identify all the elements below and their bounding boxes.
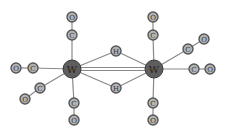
atom-c-c2: C xyxy=(28,63,38,73)
atom-o-o5: O xyxy=(148,12,158,22)
atom-o-o1: O xyxy=(67,12,77,22)
atom-label: O xyxy=(150,14,156,22)
atom-h-h1: H xyxy=(111,46,121,56)
atom-label: O xyxy=(13,65,19,73)
atom-label: H xyxy=(113,48,119,56)
atom-o-o8: O xyxy=(148,115,158,125)
atom-o-o3: O xyxy=(20,94,30,104)
atom-c-c5: C xyxy=(148,30,158,40)
atom-c-c7: C xyxy=(189,64,199,74)
atom-o-o7: O xyxy=(205,64,215,74)
atom-c-c1: C xyxy=(67,30,77,40)
atom-label: C xyxy=(185,46,190,54)
molecule-svg: WWHHCOCOCOCOCOCOCOCO xyxy=(0,0,225,136)
atom-c-c6: C xyxy=(183,44,193,54)
bonds-layer xyxy=(16,17,210,120)
molecule-diagram: WWHHCOCOCOCOCOCOCOCO xyxy=(0,0,225,136)
atom-c-c4: C xyxy=(69,98,79,108)
atom-label: C xyxy=(30,65,35,73)
atom-label: C xyxy=(191,66,196,74)
atom-w-w2: W xyxy=(145,60,163,78)
atom-label: O xyxy=(22,96,28,104)
atom-o-o6: O xyxy=(199,34,209,44)
atom-c-c3: C xyxy=(35,83,45,93)
atom-w-w1: W xyxy=(63,60,81,78)
atom-label: O xyxy=(71,117,77,125)
atom-label: O xyxy=(207,66,213,74)
atom-label: O xyxy=(69,14,75,22)
atom-label: W xyxy=(149,64,160,75)
atom-c-c8: C xyxy=(148,98,158,108)
atom-label: C xyxy=(150,100,155,108)
atom-label: C xyxy=(150,32,155,40)
atom-label: O xyxy=(201,36,207,44)
atom-label: C xyxy=(71,100,76,108)
atom-o-o2: O xyxy=(11,63,21,73)
atom-label: C xyxy=(37,85,42,93)
atom-label: C xyxy=(69,32,74,40)
atom-o-o4: O xyxy=(69,115,79,125)
atom-label: W xyxy=(67,64,78,75)
atom-h-h2: H xyxy=(111,83,121,93)
atom-label: H xyxy=(113,85,119,93)
atom-label: O xyxy=(150,117,156,125)
